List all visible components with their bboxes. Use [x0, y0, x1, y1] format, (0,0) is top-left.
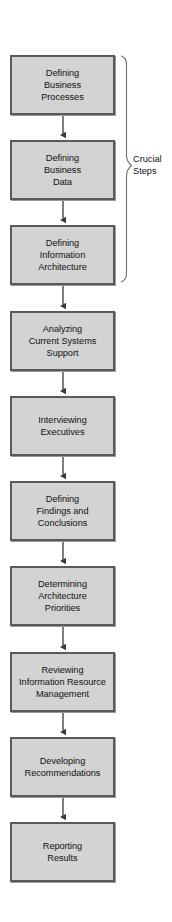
flow-node-reporting-results[interactable]: Reporting Results — [10, 822, 115, 882]
flow-node-label: Developing Recommendations — [23, 755, 103, 779]
flow-node-label: Analyzing Current Systems Support — [27, 323, 99, 360]
flow-node-defining-findings-and-conclusions[interactable]: Defining Findings and Conclusions — [10, 481, 115, 541]
crucial-steps-label: Crucial Steps — [133, 153, 162, 177]
flow-node-analyzing-current-systems-support[interactable]: Analyzing Current Systems Support — [10, 311, 115, 371]
flow-node-developing-recommendations[interactable]: Developing Recommendations — [10, 737, 115, 797]
flow-node-label: Interviewing Executives — [36, 414, 88, 438]
flow-node-defining-business-data[interactable]: Defining Business Data — [10, 140, 115, 200]
flow-node-label: Defining Business Data — [42, 152, 83, 189]
flow-node-label: Reporting Results — [41, 840, 84, 864]
flow-node-defining-information-architecture[interactable]: Defining Information Architecture — [10, 225, 115, 285]
flow-node-reviewing-information-resource-management[interactable]: Reviewing Information Resource Managemen… — [10, 652, 115, 712]
flow-node-label: Defining Information Architecture — [36, 237, 88, 274]
flow-node-label: Defining Business Processes — [39, 67, 85, 104]
flow-node-label: Determining Architecture Priorities — [36, 578, 89, 615]
flow-node-label: Reviewing Information Resource Managemen… — [17, 664, 108, 701]
flow-node-interviewing-executives[interactable]: Interviewing Executives — [10, 396, 115, 456]
flow-node-label: Defining Findings and Conclusions — [34, 493, 90, 530]
flowchart-diagram: Defining Business Processes Defining Bus… — [0, 0, 172, 922]
flow-node-determining-architecture-priorities[interactable]: Determining Architecture Priorities — [10, 566, 115, 626]
flow-node-defining-business-processes[interactable]: Defining Business Processes — [10, 55, 115, 115]
